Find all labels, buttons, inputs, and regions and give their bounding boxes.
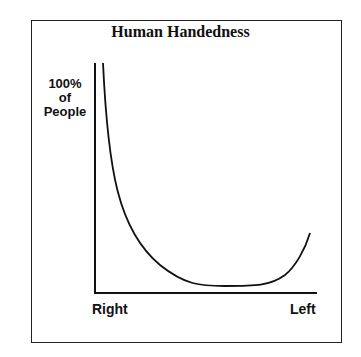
x-tick-left: Left bbox=[290, 301, 316, 317]
handedness-curve bbox=[103, 63, 310, 286]
x-tick-right: Right bbox=[92, 301, 128, 317]
